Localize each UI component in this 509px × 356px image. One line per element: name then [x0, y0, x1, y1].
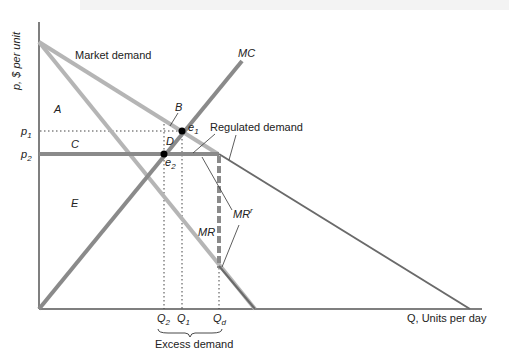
regulated-demand-tail	[219, 154, 470, 309]
mr-regulated-tail	[219, 266, 255, 309]
mr-regulated-label: MRr	[233, 206, 253, 220]
y-axis-label: p, $ per unit	[10, 31, 22, 91]
area-b-label: B	[175, 101, 182, 113]
excess-demand-label: Excess demand	[155, 338, 233, 350]
area-d-label: D	[166, 135, 174, 147]
market-demand-label: Market demand	[75, 49, 151, 61]
regulation-diagram: p, $ per unit p1 p2 Market demand MC Reg…	[0, 0, 509, 356]
e2-label: e2	[165, 156, 176, 171]
excess-demand-brace	[158, 329, 222, 337]
e1-label: e1	[188, 121, 199, 136]
mr-label: MR	[198, 226, 215, 238]
q1-label: Q1	[177, 312, 190, 327]
x-axis-label: Q, Units per day	[407, 312, 487, 324]
area-e-label: E	[71, 197, 79, 209]
qd-label: Qd	[213, 312, 227, 327]
mc-curve	[39, 61, 242, 309]
point-e1	[179, 128, 186, 135]
mr-regulated-pointer-2	[222, 225, 239, 267]
mc-label: MC	[238, 47, 255, 59]
regulated-pointer-2	[229, 135, 236, 160]
area-c-label: C	[71, 138, 79, 150]
area-a-label: A	[53, 103, 61, 115]
p2-label: p2	[20, 148, 32, 163]
p1-label: p1	[20, 125, 32, 140]
regulated-demand-label: Regulated demand	[210, 121, 303, 133]
q2-label: Q2	[157, 312, 171, 327]
b-pointer	[170, 113, 178, 126]
